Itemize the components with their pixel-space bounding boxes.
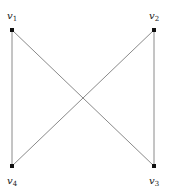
vertex-v3 [152,164,156,168]
labels: v1 v2 v3 v4 [7,10,159,188]
vertex-v4 [10,164,14,168]
vertex-label-v2: v2 [149,10,159,23]
edges [12,30,154,166]
vertex-label-v3: v3 [149,175,159,188]
vertex-label-v1: v1 [7,10,17,23]
vertex-label-v4: v4 [7,175,18,188]
vertex-v1 [10,28,14,32]
graph-diagram: v1 v2 v3 v4 [0,0,169,195]
vertex-v2 [152,28,156,32]
